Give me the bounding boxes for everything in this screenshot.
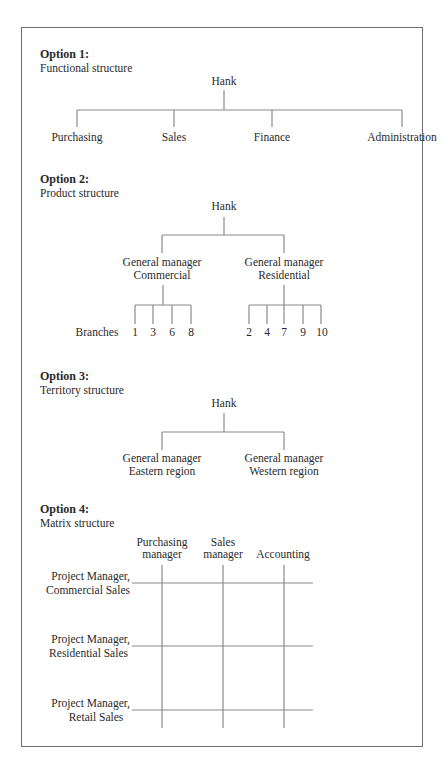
option-3-gm-western-line2: Western region [249, 465, 319, 478]
branch-node: 4 [264, 326, 270, 339]
option-1-subtitle: Functional structure [40, 62, 132, 75]
option-2-subtitle: Product structure [40, 187, 119, 200]
branch-node: 1 [132, 326, 138, 339]
matrix-row-label: Residential Sales [49, 647, 128, 660]
branches-label: Branches [76, 326, 119, 339]
matrix-row-label: Commercial Sales [46, 584, 130, 597]
matrix-row-label: Project Manager, [51, 697, 130, 710]
branch-node: 9 [300, 326, 306, 339]
option-1-node-administration: Administration [367, 131, 437, 144]
option-3-root-node: Hank [212, 397, 237, 410]
option-2-title: Option 2: [40, 173, 89, 186]
branch-node: 2 [246, 326, 252, 339]
option-1-title: Option 1: [40, 48, 89, 61]
option-3-gm-eastern-line1: General manager [123, 452, 202, 465]
option-3-gm-western-line1: General manager [245, 452, 324, 465]
option-3-gm-eastern-line2: Eastern region [129, 465, 196, 478]
option-4-title: Option 4: [40, 503, 89, 516]
matrix-column-header: manager [203, 548, 243, 561]
option-1-node-sales: Sales [162, 131, 186, 144]
matrix-row-label: Project Manager, [51, 570, 130, 583]
option-1-root-node: Hank [212, 75, 237, 88]
matrix-column-header: manager [142, 548, 182, 561]
option-3-subtitle: Territory structure [40, 384, 124, 397]
option-3-title: Option 3: [40, 370, 89, 383]
option-1-node-finance: Finance [254, 131, 290, 144]
branch-node: 7 [281, 326, 287, 339]
matrix-row-label: Retail Sales [69, 711, 124, 724]
option-2-gm-commercial-line1: General manager [123, 256, 202, 269]
branch-node: 10 [316, 326, 328, 339]
branch-node: 6 [169, 326, 175, 339]
matrix-column-header: Accounting [256, 548, 310, 561]
matrix-row-label: Project Manager, [51, 633, 130, 646]
option-4-subtitle: Matrix structure [40, 517, 114, 530]
branch-node: 3 [150, 326, 156, 339]
branch-node: 8 [188, 326, 194, 339]
option-2-gm-residential-line2: Residential [258, 269, 310, 282]
option-2-gm-commercial-line2: Commercial [134, 269, 191, 282]
option-1-node-purchasing: Purchasing [51, 131, 102, 144]
option-2-gm-residential-line1: General manager [245, 256, 324, 269]
option-2-root-node: Hank [212, 200, 237, 213]
